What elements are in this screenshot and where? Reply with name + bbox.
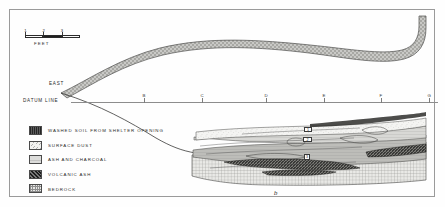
legend-label-bedrock: BEDROCK [48,187,76,192]
legend-swatch-volcanic-ash [29,170,42,179]
washed-soil-band [61,16,426,98]
station-tick-c [202,98,203,103]
datum-line [71,102,438,103]
station-tick-b [144,98,145,103]
legend-label-volcanic-ash: VOLCANIC ASH [48,172,91,177]
legend-swatch-bedrock [29,184,42,193]
station-label-g: G [428,93,431,98]
legend-swatch-surface-dust [29,141,42,150]
sample-marker-1: 1 [304,127,312,132]
east-label: EAST [49,81,64,86]
legend-label-washed-soil: WASHED SOIL FROM SHELTER OPENING [48,128,164,133]
datum-line-label: DATUM LINE [23,98,58,103]
station-tick-d [266,98,267,103]
stratigraphic-profile-figure: 1 2 3 FEET [0,0,445,207]
station-label-e: E [323,93,326,98]
station-tick-e [324,98,325,103]
profile-drawing [10,10,436,198]
station-tick-g [429,98,430,103]
sample-marker-3: 3 [304,154,310,160]
sample-marker-2: 2 [303,137,312,142]
figure-letter-label: b [274,190,277,196]
legend-swatch-washed-soil [29,126,42,135]
station-label-d: D [265,93,268,98]
legend-swatch-ash-charcoal [29,155,42,164]
figure-frame: 1 2 3 FEET [9,9,435,197]
station-label-b: B [143,93,146,98]
station-label-f: F [380,93,383,98]
legend-label-surface-dust: SURFACE DUST [48,143,93,148]
legend-label-ash-charcoal: ASH AND CHARCOAL [48,157,107,162]
station-tick-f [381,98,382,103]
station-label-c: C [201,93,204,98]
